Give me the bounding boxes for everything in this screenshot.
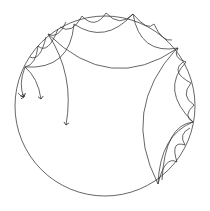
disk-boundary [15, 16, 195, 196]
arrow-left-mid [25, 67, 41, 99]
scallop-top-1 [82, 13, 106, 22]
scallop-top-3 [133, 14, 154, 26]
diagram-svg [0, 0, 210, 211]
scallop-right-1 [178, 62, 191, 83]
geodesic-upper-left [25, 24, 74, 67]
scallop-right-4 [176, 48, 186, 62]
hyperbolic-disk-diagram [0, 0, 210, 211]
geodesic-right-large [143, 48, 177, 184]
geodesic-top-long [48, 34, 178, 68]
scallop-lr-2 [175, 144, 185, 162]
arrow-left-long [48, 34, 68, 125]
scallop-left-3 [25, 46, 38, 67]
scallop-lr-1 [182, 128, 190, 145]
geodesic-right-inner [175, 62, 193, 122]
